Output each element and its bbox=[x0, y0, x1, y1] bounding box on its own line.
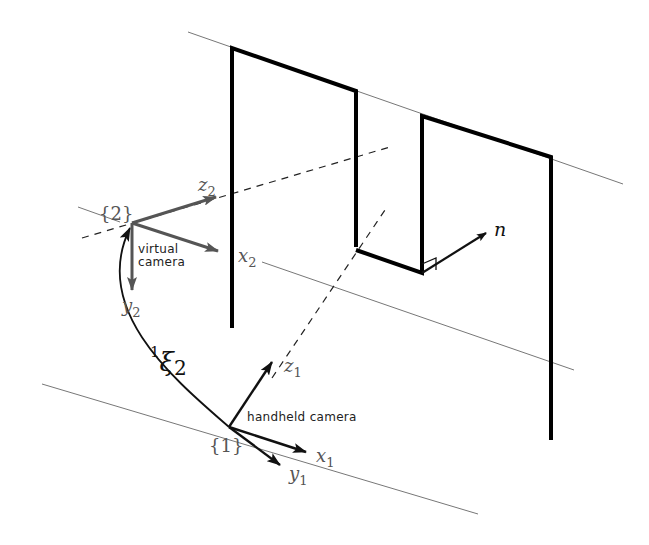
handheld-view-ray bbox=[272, 210, 385, 378]
normal-arrow bbox=[422, 233, 486, 273]
diagram-canvas: n 1ξ2 {2} virtual camera z2 x2 y2 {1} ha… bbox=[0, 0, 649, 545]
handheld-caption: handheld camera bbox=[247, 410, 357, 424]
wall-recess-bottom bbox=[356, 116, 551, 440]
z2-label: z2 bbox=[197, 174, 216, 199]
guide-lines bbox=[42, 32, 623, 514]
dashed-rays bbox=[82, 147, 390, 378]
y1-label: y1 bbox=[288, 463, 307, 488]
transform-label: 1ξ2 bbox=[150, 343, 187, 380]
middle-guide-line-right bbox=[262, 262, 574, 370]
wall-structure bbox=[232, 48, 551, 440]
normal-label: n bbox=[494, 218, 506, 240]
virtual-caption-line2: camera bbox=[138, 255, 185, 269]
virtual-view-ray bbox=[82, 147, 390, 238]
x2-label: x2 bbox=[238, 245, 256, 270]
handheld-camera-frame: {1} handheld camera z1 x1 y1 bbox=[209, 355, 357, 488]
virtual-caption-line1: virtual bbox=[138, 242, 178, 256]
virtual-frame-label: {2} bbox=[99, 203, 133, 224]
normal-indicator: n bbox=[422, 218, 506, 273]
z1-label: z1 bbox=[283, 355, 302, 380]
handheld-frame-label: {1} bbox=[209, 435, 243, 456]
virtual-z-axis bbox=[132, 197, 216, 223]
